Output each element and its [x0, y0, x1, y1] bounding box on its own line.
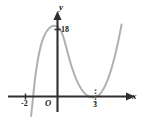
x-root-minus2-label: -2	[21, 100, 28, 108]
function-graph-figure: y x 18 -2 3 O	[0, 0, 142, 117]
origin-label: O	[45, 99, 51, 108]
y-value-18-label: 18	[61, 26, 69, 34]
x-root-3-label: 3	[93, 101, 97, 109]
y-axis-arrowhead	[53, 11, 61, 20]
x-axis-label: x	[132, 92, 137, 101]
y-axis-label: y	[59, 3, 63, 12]
